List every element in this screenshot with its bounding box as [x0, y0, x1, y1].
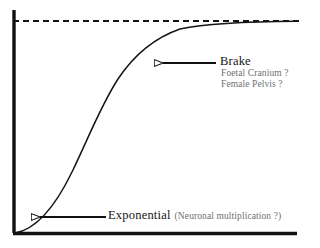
brake-subline-foetal-cranium: Foetal Cranium ?: [221, 69, 289, 79]
sigmoid-curve: [15, 21, 296, 233]
exponential-annotation: Exponential(Neuronal multiplication ?): [108, 206, 281, 223]
brake-subline-female-pelvis: Female Pelvis ?: [221, 80, 289, 90]
sigmoid-growth-figure: Brake Foetal Cranium ? Female Pelvis ? E…: [0, 0, 320, 248]
exponential-sublabel: (Neuronal multiplication ?): [175, 211, 282, 221]
brake-label: Brake: [220, 55, 289, 68]
brake-annotation: Brake Foetal Cranium ? Female Pelvis ?: [218, 55, 289, 90]
exponential-label: Exponential: [108, 208, 171, 222]
